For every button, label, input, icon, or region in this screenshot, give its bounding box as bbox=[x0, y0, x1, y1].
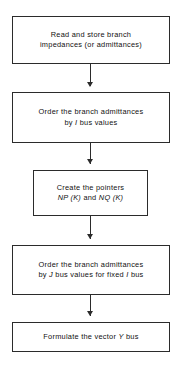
flowchart-node-order-branch-admittances-by-j-bus: Order the branch admittances by J bus va… bbox=[12, 245, 170, 295]
flowchart-node-label: Order the branch admittances by J bus va… bbox=[35, 260, 146, 281]
flowchart-connector-3-arrowhead-icon bbox=[87, 234, 93, 239]
flowchart-node-read-store-branch-impedances: Read and store branch impedances (or adm… bbox=[12, 16, 170, 64]
flowchart-node-create-pointers: Create the pointers NP (K) and NQ (K) bbox=[33, 170, 148, 216]
flowchart-node-label: Order the branch admittances by I bus va… bbox=[36, 107, 147, 128]
flowchart-node-formulate-vector-y-bus: Formulate the vector Y bus bbox=[12, 322, 170, 352]
flowchart-node-label: Read and store branch impedances (or adm… bbox=[37, 30, 145, 51]
flowchart-connector-2-arrowhead-icon bbox=[87, 159, 93, 164]
flowchart-connector-4-arrowhead-icon bbox=[87, 311, 93, 316]
flowchart-node-label: Formulate the vector Y bus bbox=[40, 332, 141, 343]
flowchart-diagram: Read and store branch impedances (or adm… bbox=[0, 0, 182, 376]
flowchart-connector-1-arrowhead-icon bbox=[87, 82, 93, 87]
flowchart-node-label: Create the pointers NP (K) and NQ (K) bbox=[54, 183, 128, 204]
flowchart-node-order-branch-admittances-by-i-bus: Order the branch admittances by I bus va… bbox=[12, 92, 170, 143]
